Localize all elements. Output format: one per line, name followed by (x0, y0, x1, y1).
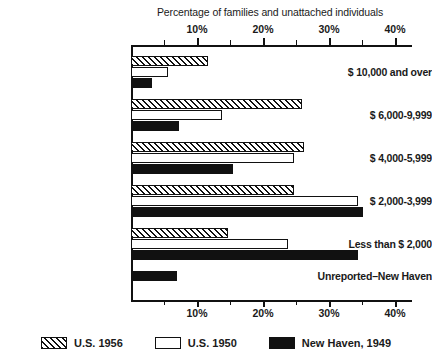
x-axis-tick-label-bottom: 10% (177, 307, 217, 319)
x-axis-tick (164, 40, 165, 45)
x-axis-tick (263, 300, 265, 307)
bar-us1950 (131, 110, 222, 120)
legend-item-us1950[interactable]: U.S. 1950 (155, 337, 237, 349)
bar-newhaven (131, 121, 179, 131)
x-axis-tick (296, 300, 297, 305)
bar-newhaven (131, 207, 363, 217)
category-label: Unreported–New Haven (307, 270, 432, 282)
chart-legend: U.S. 1956U.S. 1950New Haven, 1949 (0, 331, 432, 355)
x-axis-tick-label-bottom: 30% (309, 307, 349, 319)
bar-us1956 (131, 99, 302, 109)
legend-label: New Haven, 1949 (302, 337, 391, 349)
x-axis-tick-label-top: 20% (243, 23, 283, 35)
x-axis-tick-label-bottom: 40% (375, 307, 415, 319)
x-axis-tick (329, 300, 331, 307)
x-axis-tick (197, 300, 199, 307)
x-axis-bottom-line (131, 300, 412, 302)
x-axis-tick (395, 38, 397, 45)
legend-swatch-icon (155, 337, 181, 349)
bar-newhaven (131, 164, 233, 174)
x-axis-tick (230, 40, 231, 45)
x-axis-tick (263, 38, 265, 45)
category-label: $ 4,000-5,999 (307, 152, 432, 164)
category-label: $ 2,000-3,999 (307, 195, 432, 207)
bar-us1956 (131, 142, 304, 152)
x-axis-tick-label-top: 30% (309, 23, 349, 35)
x-axis-tick-label-bottom: 20% (243, 307, 283, 319)
bar-newhaven (131, 271, 177, 281)
bar-us1950 (131, 239, 288, 249)
x-axis-tick (395, 300, 397, 307)
bar-us1956 (131, 185, 294, 195)
x-axis-title: Percentage of families and unattached in… (120, 6, 420, 18)
x-axis-tick (296, 40, 297, 45)
x-axis-tick (230, 300, 231, 305)
x-axis-tick (362, 40, 363, 45)
bar-us1956 (131, 228, 228, 238)
category-label: Less than $ 2,000 (307, 238, 432, 250)
legend-item-us1956[interactable]: U.S. 1956 (41, 337, 123, 349)
x-axis-tick-label-top: 10% (177, 23, 217, 35)
x-axis-tick (197, 38, 199, 45)
legend-item-newhaven[interactable]: New Haven, 1949 (269, 337, 391, 349)
x-axis-tick (362, 300, 363, 305)
x-axis-top-line (131, 45, 412, 47)
chart-container: Percentage of families and unattached in… (0, 0, 432, 364)
legend-swatch-icon (269, 337, 295, 349)
legend-label: U.S. 1950 (188, 337, 237, 349)
x-axis-tick-label-top: 40% (375, 23, 415, 35)
legend-swatch-icon (41, 337, 67, 349)
bar-us1956 (131, 56, 208, 66)
x-axis-tick (329, 38, 331, 45)
bar-us1950 (131, 67, 168, 77)
bar-us1950 (131, 153, 294, 163)
x-axis-tick (164, 300, 165, 305)
category-label: $ 6,000-9,999 (307, 109, 432, 121)
bar-newhaven (131, 250, 358, 260)
bar-newhaven (131, 78, 152, 88)
category-label: $ 10,000 and over (307, 66, 432, 78)
legend-label: U.S. 1956 (74, 337, 123, 349)
